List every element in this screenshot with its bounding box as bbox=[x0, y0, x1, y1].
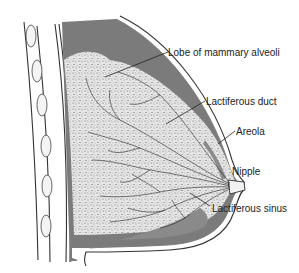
ribs bbox=[26, 25, 52, 237]
glandular-tissue bbox=[64, 52, 236, 235]
chest-wall-outer-line bbox=[24, 22, 38, 260]
rib bbox=[26, 25, 36, 47]
label-lactiferous-duct: Lactiferous duct bbox=[206, 96, 277, 107]
rib bbox=[41, 215, 51, 237]
rib bbox=[37, 94, 47, 116]
label-lobe-of-mammary-alveoli: Lobe of mammary alveoli bbox=[168, 47, 280, 58]
rib bbox=[42, 175, 52, 197]
label-nipple: Nipple bbox=[232, 166, 261, 177]
label-areola: Areola bbox=[236, 126, 265, 137]
breast-anatomy-diagram: Lobe of mammary alveoli Lactiferous duct… bbox=[0, 0, 299, 273]
rib bbox=[41, 135, 51, 157]
label-lactiferous-sinus: Lactiferous sinus bbox=[212, 203, 287, 214]
rib bbox=[32, 60, 42, 82]
